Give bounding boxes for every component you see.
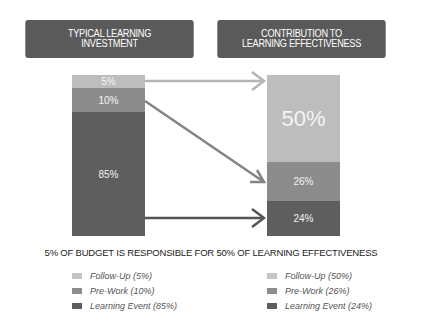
- legend-item: Pre-Work (26%): [267, 283, 372, 298]
- legend-left: Follow-Up (5%) Pre-Work (10%) Learning E…: [72, 268, 177, 313]
- legend-item: Follow-Up (50%): [267, 268, 372, 283]
- legend-item: Learning Event (24%): [267, 298, 372, 313]
- headline: 5% OF BUDGET IS RESPONSIBLE FOR 50% OF L…: [0, 247, 422, 258]
- swatch-prework-icon: [72, 288, 82, 294]
- arrow-event-icon: [145, 209, 264, 227]
- swatch-event-icon: [267, 303, 277, 309]
- legend-item: Pre-Work (10%): [72, 283, 177, 298]
- arrow-followup-icon: [145, 72, 264, 90]
- legend-right: Follow-Up (50%) Pre-Work (26%) Learning …: [267, 268, 372, 313]
- legend-item: Follow-Up (5%): [72, 268, 177, 283]
- swatch-followup-icon: [267, 273, 277, 279]
- arrow-prework-icon: [145, 101, 264, 182]
- swatch-followup-icon: [72, 273, 82, 279]
- swatch-event-icon: [72, 303, 82, 309]
- swatch-prework-icon: [267, 288, 277, 294]
- legend-item: Learning Event (85%): [72, 298, 177, 313]
